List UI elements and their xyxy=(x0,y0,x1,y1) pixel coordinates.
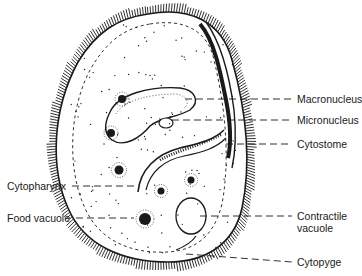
label-micronucleus: Micronucleus xyxy=(297,114,359,126)
label-macronucleus: Macronucleus xyxy=(297,93,362,105)
label-contractile-vacuole: Contractile vacuole xyxy=(297,210,347,234)
label-cytopharynx: Cytopharynx xyxy=(7,180,66,192)
micronucleus xyxy=(159,118,173,128)
label-food-vacuole: Food vacuole xyxy=(7,212,70,224)
label-cytopyge: Cytopyge xyxy=(297,256,341,268)
label-cytostome: Cytostome xyxy=(297,138,347,150)
